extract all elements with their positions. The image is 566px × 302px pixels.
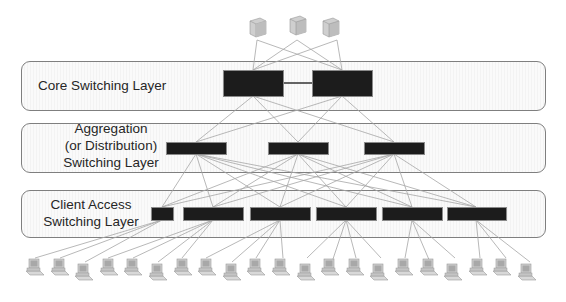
access-switch-6 [447,207,507,221]
desktop-computer-icon [516,262,538,284]
desktop-computer-icon [73,262,95,284]
core-switch-1 [223,70,284,97]
desktop-computer-icon [344,257,366,279]
server-icon [288,14,308,36]
server-icon [321,16,341,38]
aggregation-label-line-3: Switching Layer [26,154,196,171]
desktop-computer-icon [172,257,194,279]
access-label-line-2: Switching Layer [32,213,150,230]
desktop-computer-icon [24,257,46,279]
desktop-computer-icon [122,257,144,279]
desktop-computer-icon [221,262,243,284]
network-diagram: Core Switching Layer Aggregation (or Dis… [0,0,566,302]
desktop-computer-icon [393,257,415,279]
desktop-computer-icon [418,257,440,279]
desktop-computer-icon [245,257,267,279]
desktop-computer-icon [49,257,71,279]
desktop-computer-icon [196,257,218,279]
access-switch-5 [382,207,443,221]
aggregation-switch-2 [268,142,329,155]
desktop-computer-icon [295,262,317,284]
core-layer-label: Core Switching Layer [38,77,166,94]
access-switch-3 [250,207,311,221]
desktop-computer-icon [319,257,341,279]
access-switch-2 [183,207,244,221]
access-switch-1 [151,207,174,221]
desktop-computer-icon [368,262,390,284]
desktop-computer-icon [98,257,120,279]
server-icon [248,16,268,38]
access-label-line-1: Client Access [32,196,150,213]
desktop-computer-icon [270,257,292,279]
core-switch-2 [312,70,373,97]
desktop-computer-icon [467,257,489,279]
aggregation-switch-3 [364,142,425,155]
desktop-computer-icon [491,257,513,279]
access-switch-4 [316,207,377,221]
aggregation-switch-1 [166,142,227,155]
access-layer-label: Client Access Switching Layer [32,196,150,230]
desktop-computer-icon [147,262,169,284]
desktop-computer-icon [442,262,464,284]
aggregation-label-line-1: Aggregation [26,120,196,137]
